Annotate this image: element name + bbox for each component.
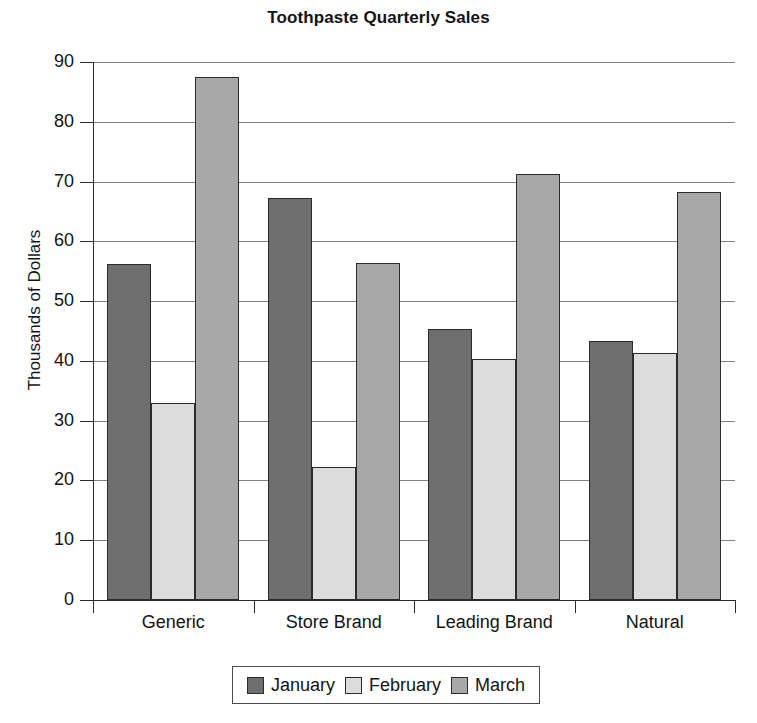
bar: [428, 329, 472, 600]
y-tick-label: 80: [20, 111, 74, 132]
y-tick-mark: [80, 361, 93, 362]
y-tick-mark: [80, 480, 93, 481]
legend-swatch-icon: [451, 677, 468, 694]
bar: [356, 263, 400, 600]
bar: [516, 174, 560, 600]
legend-swatch-icon: [345, 677, 362, 694]
x-tick-mark: [735, 601, 736, 613]
bar: [107, 264, 151, 600]
legend-swatch-icon: [247, 677, 264, 694]
chart-container: Toothpaste Quarterly Sales Thousands of …: [0, 0, 757, 723]
y-tick-label: 40: [20, 350, 74, 371]
legend-item: March: [451, 675, 525, 696]
y-tick-mark: [80, 182, 93, 183]
y-tick-mark: [80, 62, 93, 63]
legend-item: January: [247, 675, 335, 696]
x-category-label: Natural: [575, 612, 736, 633]
y-tick-label: 70: [20, 171, 74, 192]
x-category-label: Store Brand: [254, 612, 415, 633]
chart-legend: JanuaryFebruaryMarch: [232, 666, 540, 704]
y-tick-label: 0: [20, 589, 74, 610]
bar: [151, 403, 195, 600]
y-tick-mark: [80, 241, 93, 242]
y-tick-label: 50: [20, 290, 74, 311]
bar: [633, 353, 677, 600]
bar: [677, 192, 721, 600]
plot-area: [93, 62, 735, 600]
chart-title: Toothpaste Quarterly Sales: [0, 8, 757, 28]
y-tick-mark: [80, 122, 93, 123]
y-tick-mark: [80, 540, 93, 541]
y-tick-label: 20: [20, 469, 74, 490]
bar: [195, 77, 239, 600]
y-tick-mark: [80, 600, 93, 601]
bar: [268, 198, 312, 600]
bar: [472, 359, 516, 600]
legend-label: February: [369, 675, 441, 696]
y-tick-mark: [80, 301, 93, 302]
y-tick-label: 90: [20, 51, 74, 72]
y-tick-label: 60: [20, 230, 74, 251]
legend-label: March: [475, 675, 525, 696]
legend-item: February: [345, 675, 441, 696]
x-category-label: Generic: [93, 612, 254, 633]
bar: [312, 467, 356, 600]
bar: [589, 341, 633, 600]
legend-label: January: [271, 675, 335, 696]
y-tick-label: 10: [20, 529, 74, 550]
x-category-label: Leading Brand: [414, 612, 575, 633]
y-tick-mark: [80, 421, 93, 422]
y-tick-label: 30: [20, 410, 74, 431]
